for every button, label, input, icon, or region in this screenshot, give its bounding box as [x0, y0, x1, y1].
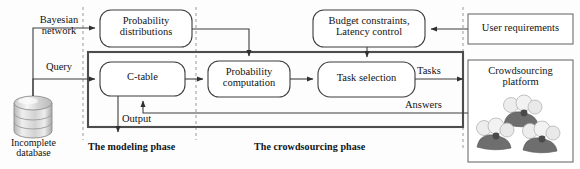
- node-label-probability-computation: Probability computation: [208, 67, 290, 89]
- phase-label-modeling: The modeling phase: [88, 142, 238, 152]
- node-label-incomplete-database: Incomplete database: [0, 138, 67, 159]
- people-group-icon-right: [523, 121, 561, 153]
- edge-db-to-c-table: [33, 79, 95, 96]
- edge-label-output: Output: [122, 114, 170, 125]
- people-group-icon-left: [477, 118, 515, 150]
- edge-label-query: Query: [34, 62, 84, 73]
- node-label-task-selection: Task selection: [318, 73, 415, 84]
- people-group-icon-top: [504, 95, 543, 127]
- node-label-c-table: C-table: [100, 72, 185, 83]
- node-label-probability-distributions: Probability distributions: [100, 16, 192, 38]
- diagram-canvas: Probability distributions Budget constra…: [0, 0, 580, 169]
- edge-label-answers: Answers: [405, 100, 461, 111]
- node-label-user-requirements: User requirements: [468, 23, 573, 34]
- node-label-crowdsourcing-platform: Crowdsourcing platform: [468, 66, 573, 88]
- edge-label-tasks: Tasks: [417, 66, 461, 77]
- edge-label-bayesian-network: Bayesian network: [30, 15, 88, 37]
- phase-label-crowdsourcing: The crowdsourcing phase: [254, 142, 444, 152]
- incomplete-database-icon: [14, 96, 52, 138]
- node-label-budget-latency: Budget constraints, Latency control: [313, 16, 425, 38]
